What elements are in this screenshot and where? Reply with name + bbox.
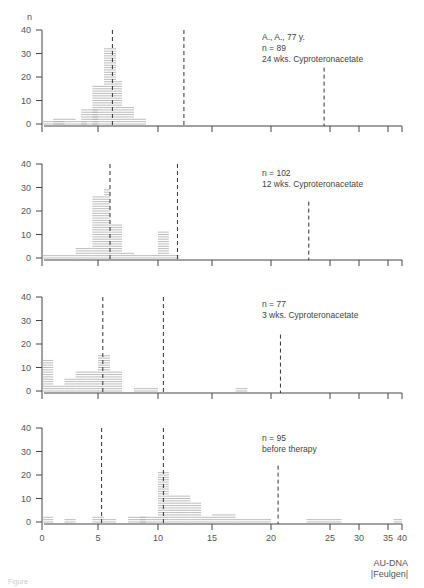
y-tick-label: 0 (26, 119, 31, 129)
figure-caption: Figure (8, 578, 28, 585)
y-tick-label: 40 (21, 25, 31, 35)
x-tick-label: 5 (95, 533, 100, 543)
y-tick-label: 10 (21, 230, 31, 240)
y-tick-label: 20 (21, 339, 31, 349)
panel-annotation: n = 77 (262, 299, 286, 309)
x-tick-label: 15 (207, 533, 217, 543)
y-tick-label: 0 (26, 386, 31, 396)
x-tick-label: 35 (383, 533, 393, 543)
panel-annotation: 3 wks. Cyproteronacetate (262, 310, 359, 320)
y-tick-label: 10 (21, 494, 31, 504)
x-tick-label: 20 (266, 533, 276, 543)
panel-annotation: 12 wks. Cyproteronacetate (262, 179, 363, 189)
panel-annotation: 24 wks. Cyproteronacetate (262, 54, 363, 64)
y-tick-label: 0 (26, 253, 31, 263)
x-tick-label: 30 (354, 533, 364, 543)
y-tick-label: 0 (26, 517, 31, 527)
panel-annotation: A., A., 77 y. (262, 32, 305, 42)
y-tick-label: 40 (21, 423, 31, 433)
dna-histogram-figure: 010203040A., A., 77 y.n = 8924 wks. Cypr… (0, 0, 424, 588)
panel-annotation: n = 102 (262, 168, 291, 178)
y-tick-label: 30 (21, 183, 31, 193)
x-tick-label: 25 (325, 533, 335, 543)
panel-annotation: n = 95 (262, 433, 286, 443)
x-tick-label: 0 (39, 533, 44, 543)
panel-annotation: n = 89 (262, 43, 286, 53)
y-tick-label: 10 (21, 96, 31, 106)
y-tick-label: 40 (21, 159, 31, 169)
panel-annotation: before therapy (262, 444, 318, 454)
y-tick-label: 20 (21, 470, 31, 480)
y-tick-label: 30 (21, 447, 31, 457)
y-tick-label: 30 (21, 316, 31, 326)
y-tick-label: 40 (21, 292, 31, 302)
x-axis-sublabel: |Feulgen| (371, 569, 408, 579)
x-tick-label: 10 (153, 533, 163, 543)
x-axis-label: AU-DNA (373, 558, 408, 568)
y-tick-label: 20 (21, 72, 31, 82)
y-tick-label: 30 (21, 49, 31, 59)
x-tick-label: 40 (397, 533, 407, 543)
y-tick-label: 10 (21, 363, 31, 373)
y-axis-label: n (27, 12, 32, 22)
y-tick-label: 20 (21, 206, 31, 216)
